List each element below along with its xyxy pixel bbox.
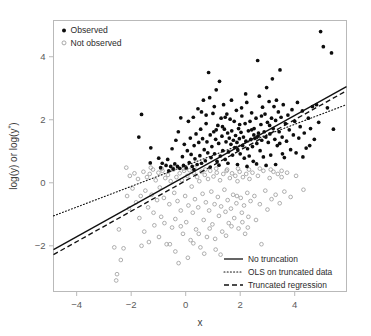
data-point-observed	[250, 128, 254, 132]
data-point-observed	[219, 116, 223, 120]
data-point-observed	[221, 125, 225, 129]
data-point-observed	[214, 128, 218, 132]
data-point-observed	[230, 129, 234, 133]
data-point-observed	[280, 135, 284, 139]
data-point-observed	[321, 45, 325, 49]
data-point-observed	[260, 138, 264, 142]
data-point-observed	[258, 149, 262, 153]
data-point-observed	[189, 153, 193, 157]
data-point-observed	[196, 107, 200, 111]
data-point-observed	[190, 165, 194, 169]
data-point-observed	[275, 98, 279, 102]
data-point-observed	[240, 114, 244, 118]
data-point-observed	[264, 164, 268, 168]
data-point-observed	[278, 68, 282, 72]
data-point-observed	[330, 51, 334, 55]
data-point-observed	[205, 140, 209, 144]
data-point-observed	[277, 110, 281, 114]
data-point-observed	[239, 131, 243, 135]
data-point-observed	[188, 136, 192, 140]
data-point-observed	[242, 156, 246, 160]
data-point-observed	[176, 130, 180, 134]
data-point-observed	[160, 161, 164, 165]
chart-canvas: −4−2024 −2024 x log(y) or log(y*) Observ…	[0, 0, 371, 336]
data-point-observed	[301, 155, 305, 159]
data-point-observed	[266, 120, 270, 124]
data-point-observed	[274, 119, 278, 123]
data-point-observed	[308, 144, 312, 148]
data-point-observed	[289, 148, 293, 152]
data-point-observed	[317, 120, 321, 124]
data-point-observed	[149, 146, 153, 150]
data-point-observed	[232, 138, 236, 142]
data-point-observed	[217, 142, 221, 146]
data-point-observed	[157, 156, 161, 160]
x-tick-label: −2	[126, 299, 137, 310]
data-point-observed	[238, 152, 242, 156]
data-point-observed	[267, 100, 271, 104]
data-point-observed	[247, 129, 251, 133]
data-point-observed	[281, 152, 285, 156]
y-tick-label: 0	[40, 177, 45, 188]
data-point-observed	[170, 147, 174, 151]
data-point-observed	[290, 108, 294, 112]
data-point-observed	[261, 105, 265, 109]
data-point-observed	[278, 142, 282, 146]
data-point-observed	[214, 137, 218, 141]
data-point-observed	[200, 110, 204, 114]
data-point-observed	[164, 164, 168, 168]
data-point-observed	[204, 122, 208, 126]
data-point-observed	[281, 103, 285, 107]
line-legend-label: No truncation	[248, 254, 298, 264]
data-point-observed	[204, 113, 208, 117]
data-point-observed	[274, 163, 278, 167]
data-point-observed	[235, 108, 239, 112]
data-point-observed	[287, 128, 291, 132]
data-point-observed	[256, 59, 260, 63]
data-point-observed	[263, 112, 267, 116]
line-legend-label: Truncated regression	[248, 280, 327, 290]
data-point-observed	[195, 163, 199, 167]
data-point-observed	[218, 79, 222, 83]
data-point-observed	[182, 142, 186, 146]
data-point-observed	[179, 116, 183, 120]
data-point-observed	[199, 127, 203, 131]
data-point-observed	[273, 137, 277, 141]
x-axis-title: x	[198, 317, 203, 328]
data-point-observed	[232, 119, 236, 123]
data-point-observed	[194, 132, 198, 136]
data-point-observed	[236, 163, 240, 167]
data-point-observed	[250, 111, 254, 115]
data-point-observed	[332, 127, 336, 131]
data-point-observed	[201, 137, 205, 141]
data-point-observed	[312, 137, 316, 141]
x-tick-label: 0	[183, 299, 188, 310]
data-point-observed	[292, 133, 296, 137]
data-point-observed	[304, 146, 308, 150]
data-point-observed	[208, 133, 212, 137]
data-point-observed	[187, 119, 191, 123]
x-tick-label: −4	[71, 299, 82, 310]
data-point-observed	[268, 124, 272, 128]
data-point-observed	[227, 136, 231, 140]
data-point-observed	[234, 134, 238, 138]
data-point-observed	[254, 116, 258, 120]
data-point-observed	[191, 115, 195, 119]
data-point-observed	[159, 166, 163, 170]
data-point-observed	[240, 106, 244, 110]
data-point-observed	[211, 112, 215, 116]
data-point-observed	[212, 105, 216, 109]
data-point-observed	[245, 165, 249, 169]
data-point-observed	[260, 114, 264, 118]
data-point-observed	[208, 96, 212, 100]
data-point-observed	[265, 86, 269, 90]
data-point-observed	[216, 124, 220, 128]
data-point-observed	[271, 77, 275, 81]
data-point-observed	[202, 98, 206, 102]
data-point-observed	[279, 115, 283, 119]
data-point-observed	[214, 88, 218, 92]
marker-legend-label: Not observed	[71, 38, 122, 48]
data-point-observed	[224, 140, 228, 144]
x-tick-label: 4	[292, 299, 297, 310]
data-point-observed	[210, 145, 214, 149]
